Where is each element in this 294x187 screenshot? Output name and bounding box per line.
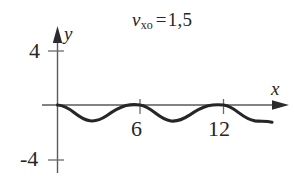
x-axis-label: x	[271, 79, 279, 98]
y-tick-label-minus-4: -4	[20, 148, 38, 170]
title-value: 1,5	[168, 9, 193, 30]
title-symbol: v	[132, 9, 141, 30]
title-subscript: xo	[141, 18, 153, 32]
figure-canvas: vxo=1,5 4 -4 6 12 y x	[0, 0, 294, 187]
data-curve	[58, 105, 273, 123]
chart-title: vxo=1,5	[132, 10, 192, 31]
y-tick-label-4: 4	[29, 40, 40, 62]
x-tick-label-6: 6	[131, 118, 142, 140]
x-axis-arrowhead	[272, 100, 289, 110]
x-tick-label-12: 12	[208, 118, 230, 140]
y-axis-label: y	[64, 24, 72, 43]
y-axis-arrowhead	[53, 26, 62, 43]
title-equals: =	[156, 9, 167, 30]
